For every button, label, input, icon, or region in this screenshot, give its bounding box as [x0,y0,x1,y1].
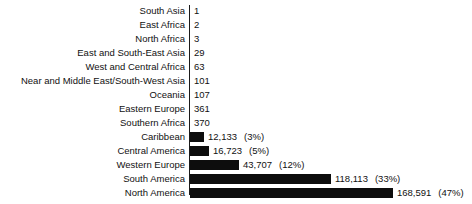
row-category-label: Central America [10,144,185,158]
row-category-label: East Africa [10,18,185,32]
row-percent-label: (47%) [438,186,463,200]
row-bar-area: 101 [190,74,210,88]
chart-row: Central America 16,723 (5%) [0,144,472,158]
row-value-label: 63 [194,60,205,74]
row-value-label: 29 [194,46,205,60]
row-value-label: 370 [194,116,210,130]
row-bar-area: 118,113 (33%) [190,172,400,186]
row-category-label: South America [10,172,185,186]
bar-segment [190,174,331,184]
chart-row: North Africa 3 [0,32,472,46]
row-bar-area: 370 [190,116,210,130]
row-bar-area: 361 [190,102,210,116]
row-value-label: 107 [194,88,210,102]
row-percent-label: (12%) [279,158,304,172]
chart-row: South America 118,113 (33%) [0,172,472,186]
chart-row: East Africa 2 [0,18,472,32]
row-percent-label: (5%) [249,144,269,158]
row-category-label: West and Central Africa [10,60,185,74]
chart-row: South Asia 1 [0,4,472,18]
row-value-label: 168,591 [397,186,431,200]
row-category-label: North Africa [10,32,185,46]
row-bar-area: 16,723 (5%) [190,144,269,158]
row-bar-area: 43,707 (12%) [190,158,304,172]
chart-row: Southern Africa 370 [0,116,472,130]
row-value-label: 12,133 [208,130,237,144]
chart-row: West and Central Africa 63 [0,60,472,74]
row-value-label: 16,723 [213,144,242,158]
row-bar-area: 12,133 (3%) [190,130,264,144]
chart-row: Eastern Europe 361 [0,102,472,116]
row-value-label: 1 [194,4,199,18]
bar-segment [190,146,209,156]
row-bar-area: 1 [190,4,199,18]
row-percent-label: (33%) [375,172,400,186]
bar-segment [190,132,204,142]
row-value-label: 2 [194,18,199,32]
row-percent-label: (3%) [244,130,264,144]
row-category-label: Oceania [10,88,185,102]
chart-row: East and South-East Asia 29 [0,46,472,60]
row-category-label: Southern Africa [10,116,185,130]
row-bar-area: 107 [190,88,210,102]
bar-segment [190,188,393,198]
row-category-label: Near and Middle East/South-West Asia [10,74,185,88]
row-bar-area: 3 [190,32,199,46]
row-bar-area: 2 [190,18,199,32]
row-category-label: Eastern Europe [10,102,185,116]
row-category-label: Western Europe [10,158,185,172]
row-value-label: 43,707 [243,158,272,172]
row-bar-area: 29 [190,46,205,60]
row-value-label: 101 [194,74,210,88]
chart-row: Oceania 107 [0,88,472,102]
chart-row: Caribbean 12,133 (3%) [0,130,472,144]
chart-row: Western Europe 43,707 (12%) [0,158,472,172]
row-category-label: East and South-East Asia [10,46,185,60]
row-bar-area: 168,591 (47%) [190,186,464,200]
chart-row: Near and Middle East/South-West Asia 101 [0,74,472,88]
row-value-label: 118,113 [335,172,368,186]
row-category-label: North America [10,186,185,200]
bar-segment [190,160,239,170]
row-bar-area: 63 [190,60,205,74]
horizontal-bar-chart: South Asia 1 East Africa 2 North Africa … [0,0,472,204]
row-value-label: 3 [194,32,199,46]
row-category-label: South Asia [10,4,185,18]
row-category-label: Caribbean [10,130,185,144]
row-value-label: 361 [194,102,210,116]
chart-row: North America 168,591 (47%) [0,186,472,200]
